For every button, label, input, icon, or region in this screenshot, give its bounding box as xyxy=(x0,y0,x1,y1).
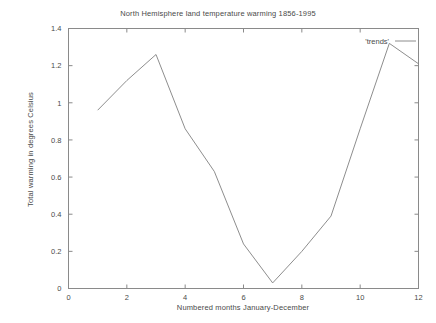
x-axis-ticks: 024681012 xyxy=(66,29,422,302)
y-tick-label: 0.8 xyxy=(51,136,61,145)
y-tick-label: 1 xyxy=(57,99,61,108)
x-tick-label: 12 xyxy=(414,293,422,302)
x-tick-label: 10 xyxy=(356,293,364,302)
plot-frame xyxy=(69,29,419,289)
plot-area: 024681012 00.20.40.60.811.21.4 'trends' xyxy=(0,0,436,323)
y-tick-label: 0.2 xyxy=(51,247,61,256)
x-tick-label: 6 xyxy=(241,293,245,302)
y-axis-ticks: 00.20.40.60.811.21.4 xyxy=(51,24,418,293)
x-tick-label: 0 xyxy=(66,293,70,302)
chart-page: North Hemisphere land temperature warmin… xyxy=(0,0,436,323)
y-tick-label: 0.4 xyxy=(51,210,61,219)
data-series-trends xyxy=(98,43,419,283)
y-tick-label: 0 xyxy=(57,284,61,293)
x-tick-label: 2 xyxy=(125,293,129,302)
x-tick-label: 8 xyxy=(300,293,304,302)
y-tick-label: 0.6 xyxy=(51,173,61,182)
legend-label: 'trends' xyxy=(365,37,389,46)
x-tick-label: 4 xyxy=(183,293,187,302)
y-tick-label: 1.4 xyxy=(51,24,61,33)
y-tick-label: 1.2 xyxy=(51,61,61,70)
